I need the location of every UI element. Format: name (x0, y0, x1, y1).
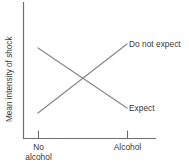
series-label-do-not-expect: Do not expect (129, 39, 181, 49)
chart-background (0, 0, 189, 165)
chart-container: Mean intensity of shock No alcohol Alcoh… (0, 0, 189, 165)
y-axis-label: Mean intensity of shock (5, 36, 14, 122)
x-tick-label-no-alcohol-line1: No (33, 142, 44, 152)
x-tick-label-no-alcohol-line2: alcohol (25, 152, 52, 162)
series-label-expect: Expect (129, 103, 155, 113)
interaction-line-chart: Mean intensity of shock No alcohol Alcoh… (0, 0, 189, 165)
x-tick-label-alcohol: Alcohol (114, 142, 142, 152)
